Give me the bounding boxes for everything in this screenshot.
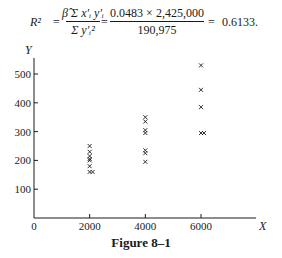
data-point-x-marker — [143, 151, 147, 155]
x-tick-label: 2000 — [79, 220, 102, 232]
data-point-x-marker — [199, 105, 203, 109]
y-tick-label: 200 — [15, 154, 32, 166]
figure-caption: Figure 8–1 — [0, 235, 282, 251]
data-points — [88, 63, 206, 174]
data-point-x-marker — [143, 160, 147, 164]
data-point-x-marker — [88, 144, 92, 148]
scatter-plot: 1002003004005000200040006000YX — [0, 0, 282, 258]
x-axis-label: X — [258, 219, 267, 233]
data-point-x-marker — [143, 115, 147, 119]
y-tick-label: 300 — [15, 126, 32, 138]
y-axis-label: Y — [25, 43, 33, 57]
plot-axes: 1002003004005000200040006000YX — [15, 43, 268, 233]
data-point-x-marker — [91, 170, 95, 174]
y-tick-label: 400 — [15, 97, 32, 109]
x-tick-label: 0 — [31, 220, 37, 232]
y-tick-label: 100 — [15, 183, 32, 195]
data-point-x-marker — [143, 131, 147, 135]
data-point-x-marker — [202, 131, 206, 135]
data-point-x-marker — [143, 120, 147, 124]
data-point-x-marker — [199, 88, 203, 92]
x-tick-label: 4000 — [134, 220, 157, 232]
data-point-x-marker — [88, 150, 92, 154]
data-point-x-marker — [199, 63, 203, 67]
y-tick-label: 500 — [15, 68, 32, 80]
x-tick-label: 6000 — [190, 220, 213, 232]
data-point-x-marker — [88, 164, 92, 168]
